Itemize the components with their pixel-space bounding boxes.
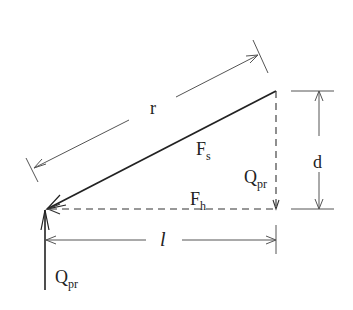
Fs-label: Fs (196, 139, 211, 163)
d-label: d (313, 152, 322, 172)
Qpr-right-arrow (273, 91, 279, 209)
Qpr-bottom-arrow (41, 210, 49, 290)
Qpr-right-label: Qpr (244, 167, 267, 191)
l-label: l (160, 228, 166, 250)
Qpr-bottom-label: Qpr (55, 267, 78, 291)
r-dimension (26, 40, 268, 182)
force-diagram: r Fs Fh Qpr d l (0, 0, 353, 310)
r-label: r (150, 98, 156, 118)
Fh-arrow (48, 204, 276, 214)
Fs-arrow (47, 91, 276, 209)
d-dimension (291, 91, 334, 209)
